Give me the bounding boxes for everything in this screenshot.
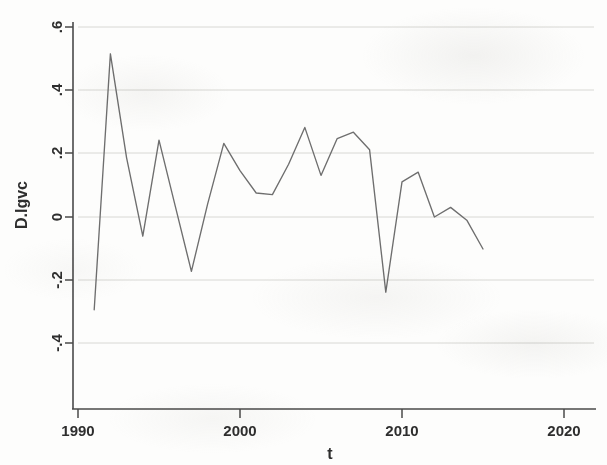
x-tick-label-2000: 2000 [223, 422, 256, 439]
y-tick-labels: .6 .4 .2 0 -.2 -.4 [48, 21, 65, 352]
x-tick-label-2010: 2010 [385, 422, 418, 439]
y-tick-label-0.6: .6 [48, 21, 65, 34]
x-axis-ticks [78, 409, 564, 418]
x-tick-labels: 1990 2000 2010 2020 [61, 422, 580, 439]
y-tick-label-0.2: .2 [48, 147, 65, 160]
line-chart: .6 .4 .2 0 -.2 -.4 1990 2000 2010 2020 D… [0, 0, 607, 465]
series-line-dlgvc [94, 54, 483, 310]
x-axis-title: t [327, 445, 333, 462]
y-axis-title: D.lgvc [13, 181, 30, 229]
y-axis-ticks [65, 27, 73, 343]
y-tick-label-0: 0 [48, 213, 65, 221]
y-tick-label-neg0.4: -.4 [48, 334, 65, 352]
x-tick-label-2020: 2020 [547, 422, 580, 439]
y-tick-label-0.4: .4 [48, 83, 65, 96]
chart-container: .6 .4 .2 0 -.2 -.4 1990 2000 2010 2020 D… [0, 0, 607, 465]
gridlines [78, 27, 594, 343]
x-tick-label-1990: 1990 [61, 422, 94, 439]
y-tick-label-neg0.2: -.2 [48, 271, 65, 289]
